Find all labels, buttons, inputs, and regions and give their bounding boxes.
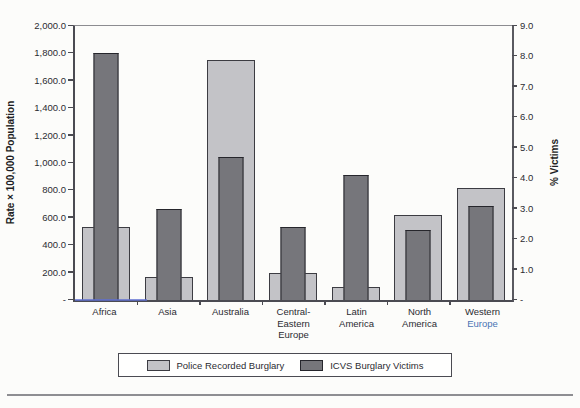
tick-label: 6.0 bbox=[520, 111, 533, 122]
legend-swatch-icvs-burglary-victims bbox=[300, 360, 323, 371]
category-label-africa: Africa bbox=[73, 306, 136, 341]
tick-mark bbox=[68, 189, 73, 191]
tick-label: 1,600.0 bbox=[34, 74, 66, 85]
tick-label: 600.0 bbox=[42, 211, 66, 222]
category-label-western-europe: WesternEurope bbox=[451, 306, 514, 341]
tick-label: 2.0 bbox=[520, 233, 533, 244]
tick-label: 800.0 bbox=[42, 184, 66, 195]
category-label-line: Asia bbox=[136, 306, 199, 318]
category-label-line: America bbox=[325, 318, 388, 330]
tick-mark bbox=[387, 301, 389, 305]
legend-swatch-police-recorded-burglary bbox=[147, 360, 170, 371]
tick-mark bbox=[199, 301, 201, 305]
category-label-line: Africa bbox=[73, 306, 136, 318]
tick-mark bbox=[262, 301, 264, 305]
tick-label: 5.0 bbox=[520, 141, 533, 152]
bar-icvs-burglary-victims-western-europe bbox=[468, 206, 493, 300]
category-label-line: Europe bbox=[262, 329, 325, 341]
tick-mark bbox=[512, 146, 517, 148]
tick-mark bbox=[68, 271, 73, 273]
category-label-line: Central- bbox=[262, 306, 325, 318]
legend-label-police-recorded-burglary: Police Recorded Burglary bbox=[177, 360, 285, 371]
category-label-australia: Australia bbox=[199, 306, 262, 341]
tick-label: 3.0 bbox=[520, 202, 533, 213]
tick-mark bbox=[512, 268, 517, 270]
tick-mark bbox=[512, 25, 517, 27]
tick-mark bbox=[449, 301, 451, 305]
right-axis-title: % Victims bbox=[546, 25, 564, 299]
category-label-line: Eastern bbox=[262, 318, 325, 330]
left-axis-title: Rate × 100,000 Population bbox=[2, 25, 20, 299]
legend-label-icvs-burglary-victims: ICVS Burglary Victims bbox=[330, 360, 423, 371]
tick-mark bbox=[68, 79, 73, 81]
left-axis-title-text: Rate × 100,000 Population bbox=[6, 100, 17, 224]
bar-icvs-burglary-victims-north-america bbox=[406, 230, 431, 300]
tick-mark bbox=[68, 216, 73, 218]
tick-label: 1,800.0 bbox=[34, 47, 66, 58]
category-label-line: Europe bbox=[451, 318, 514, 330]
bar-group-africa bbox=[75, 26, 137, 300]
category-label-line: Latin bbox=[325, 306, 388, 318]
tick-label: 4.0 bbox=[520, 172, 533, 183]
bar-icvs-burglary-victims-africa bbox=[94, 53, 119, 300]
category-label-central-eastern-europe: Central-EasternEurope bbox=[262, 306, 325, 341]
legend-item-police-recorded-burglary: Police Recorded Burglary bbox=[147, 360, 285, 371]
bar-group-western-europe bbox=[450, 26, 512, 300]
baseline-blue-artifact bbox=[75, 299, 147, 301]
plot-area bbox=[73, 25, 514, 302]
tick-label: 7.0 bbox=[520, 80, 533, 91]
category-label-asia: Asia bbox=[136, 306, 199, 341]
tick-label: 8.0 bbox=[520, 50, 533, 61]
tick-mark bbox=[68, 162, 73, 164]
tick-mark bbox=[137, 301, 139, 305]
bar-icvs-burglary-victims-latin-america bbox=[343, 175, 368, 300]
legend: Police Recorded Burglary ICVS Burglary V… bbox=[118, 353, 452, 377]
tick-label: 1.0 bbox=[520, 263, 533, 274]
bar-group-latin-america bbox=[325, 26, 387, 300]
tick-label: 1,400.0 bbox=[34, 102, 66, 113]
tick-mark bbox=[68, 52, 73, 54]
tick-mark bbox=[512, 238, 517, 240]
tick-mark bbox=[324, 301, 326, 305]
category-label-line: Australia bbox=[199, 306, 262, 318]
bar-group-australia bbox=[200, 26, 262, 300]
category-label-line: North bbox=[388, 306, 451, 318]
tick-label: 9.0 bbox=[520, 20, 533, 31]
tick-label: 1,200.0 bbox=[34, 129, 66, 140]
bar-group-central-eastern-europe bbox=[262, 26, 324, 300]
tick-mark bbox=[512, 177, 517, 179]
category-label-line: Western bbox=[451, 306, 514, 318]
tick-label: 2,000.0 bbox=[34, 20, 66, 31]
tick-mark bbox=[512, 299, 517, 301]
category-label-line: America bbox=[388, 318, 451, 330]
category-axis-labels: AfricaAsiaAustraliaCentral-EasternEurope… bbox=[73, 306, 514, 341]
category-label-north-america: NorthAmerica bbox=[388, 306, 451, 341]
bar-icvs-burglary-victims-asia bbox=[156, 209, 181, 300]
tick-label: - bbox=[63, 294, 66, 305]
bottom-divider-rule bbox=[7, 394, 573, 396]
tick-label: 200.0 bbox=[42, 266, 66, 277]
tick-mark bbox=[512, 207, 517, 209]
tick-mark bbox=[68, 244, 73, 246]
tick-mark bbox=[68, 299, 73, 301]
tick-mark bbox=[512, 116, 517, 118]
tick-mark bbox=[68, 134, 73, 136]
category-label-latin-america: LatinAmerica bbox=[325, 306, 388, 341]
right-axis-title-text: % Victims bbox=[550, 138, 561, 185]
tick-label: - bbox=[520, 294, 523, 305]
tick-mark bbox=[68, 25, 73, 27]
tick-mark bbox=[512, 85, 517, 87]
chart-figure: 2,000.01,800.01,600.01,400.01,200.01,000… bbox=[0, 0, 580, 408]
bar-group-north-america bbox=[387, 26, 449, 300]
tick-label: 400.0 bbox=[42, 239, 66, 250]
bar-groups bbox=[75, 26, 512, 300]
tick-mark bbox=[512, 55, 517, 57]
tick-mark bbox=[68, 107, 73, 109]
legend-item-icvs-burglary-victims: ICVS Burglary Victims bbox=[300, 360, 423, 371]
bar-icvs-burglary-victims-central-eastern-europe bbox=[281, 227, 306, 300]
bar-icvs-burglary-victims-australia bbox=[219, 157, 244, 300]
tick-label: 1,000.0 bbox=[34, 157, 66, 168]
bar-group-asia bbox=[137, 26, 199, 300]
